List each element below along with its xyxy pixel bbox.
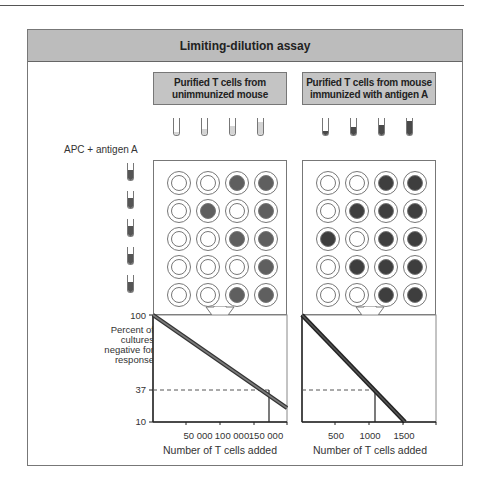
source-label-line2: unimmunized mouse: [172, 89, 268, 100]
well-negative: [316, 199, 340, 223]
top-rule: [0, 5, 464, 6]
source-label-line2: immunized with antigen A: [310, 89, 428, 100]
x-tick: 100 000: [215, 430, 249, 441]
well-negative: [196, 283, 220, 307]
well-negative: [316, 255, 340, 279]
figure-title: Limiting-dilution assay: [28, 30, 462, 62]
apc-tube: [127, 247, 134, 265]
chart-unimmunized: [148, 312, 293, 432]
y-tick-37: 37: [120, 384, 146, 395]
apc-label: APC + antigen A: [64, 144, 138, 155]
well-positive: [403, 171, 427, 195]
source-label-line1: Purified T cells from mouse: [306, 77, 432, 88]
well-negative: [345, 283, 369, 307]
well-negative: [225, 199, 249, 223]
well-negative: [167, 199, 191, 223]
apc-tube: [127, 219, 134, 237]
well-positive: [254, 199, 278, 223]
well-positive: [403, 227, 427, 251]
well-positive: [374, 283, 398, 307]
well-positive: [254, 227, 278, 251]
t-cell-tube: [378, 118, 385, 136]
well-negative: [345, 171, 369, 195]
t-cell-tube: [322, 118, 329, 136]
well-positive: [403, 199, 427, 223]
well-negative: [196, 255, 220, 279]
x-tick: 50 000: [183, 430, 212, 441]
well-negative: [167, 283, 191, 307]
x-tick: 150 000: [249, 430, 283, 441]
x-tick: 1000: [359, 430, 380, 441]
well-negative: [225, 255, 249, 279]
source-label-line1: Purified T cells from: [174, 77, 266, 88]
well-negative: [316, 283, 340, 307]
well-positive: [254, 283, 278, 307]
well-positive: [225, 227, 249, 251]
apc-tube: [127, 191, 134, 209]
well-positive: [374, 227, 398, 251]
well-negative: [196, 227, 220, 251]
well-positive: [345, 255, 369, 279]
t-cell-tube: [257, 118, 264, 136]
well-positive: [374, 171, 398, 195]
y-axis-label: Percent of cultures negative for respons…: [90, 325, 154, 365]
y-tick-10: 10: [120, 416, 146, 427]
well-positive: [403, 283, 427, 307]
t-cell-tube: [406, 118, 413, 136]
well-positive: [254, 171, 278, 195]
apc-tube: [127, 163, 134, 181]
t-cell-tube: [173, 118, 180, 136]
well-negative: [316, 171, 340, 195]
well-positive: [374, 199, 398, 223]
well-negative: [167, 171, 191, 195]
well-negative: [345, 227, 369, 251]
y-tick-100: 100: [120, 310, 146, 321]
x-tick: 1500: [393, 430, 414, 441]
t-cell-tube: [229, 118, 236, 136]
well-negative: [196, 171, 220, 195]
well-positive: [254, 255, 278, 279]
well-negative: [167, 227, 191, 251]
well-positive: [196, 199, 220, 223]
t-cell-tube: [201, 118, 208, 136]
well-positive: [225, 283, 249, 307]
x-axis-label: Number of T cells added: [313, 444, 427, 456]
well-positive: [374, 255, 398, 279]
x-axis-label: Number of T cells added: [163, 444, 277, 456]
chart-immunized: [297, 312, 442, 432]
well-positive: [403, 255, 427, 279]
well-positive: [316, 227, 340, 251]
x-tick: 500: [328, 430, 344, 441]
culture-plate-immunized: [302, 160, 436, 315]
well-negative: [167, 255, 191, 279]
t-cell-tube: [350, 118, 357, 136]
well-positive: [225, 171, 249, 195]
culture-plate-unimmunized: [153, 160, 287, 315]
source-box-unimmunized: Purified T cells fromunimmunized mouse: [153, 72, 287, 105]
apc-tube: [127, 275, 134, 293]
source-box-immunized: Purified T cells from mouseimmunized wit…: [302, 72, 436, 105]
well-positive: [345, 199, 369, 223]
